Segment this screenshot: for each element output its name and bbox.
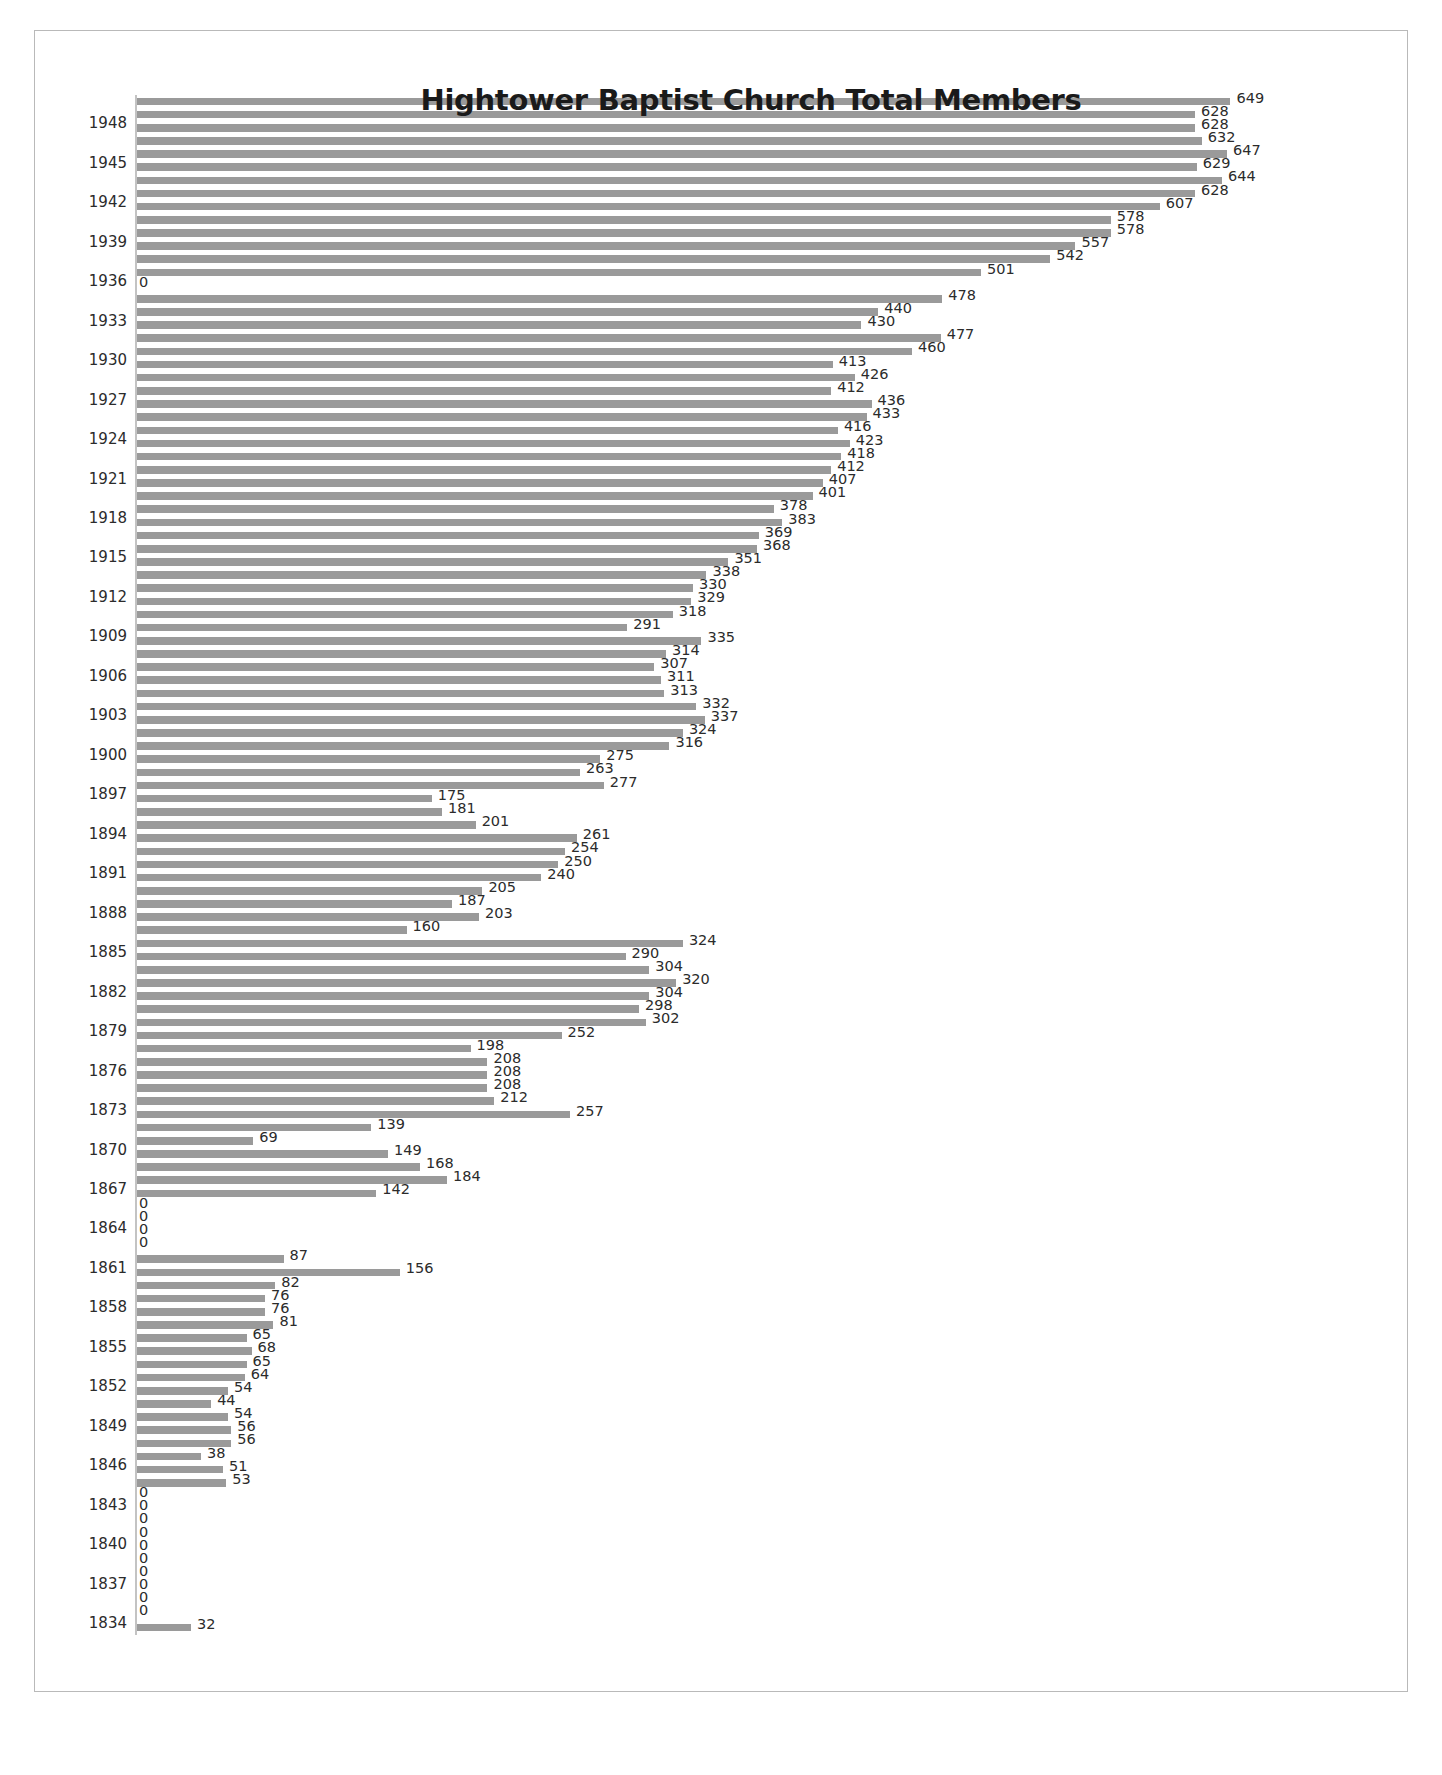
bar-row: 307: [137, 661, 1399, 674]
bar-value-label: 644: [1228, 170, 1256, 183]
bar: [137, 1071, 487, 1079]
bar-value-label: 201: [482, 815, 510, 828]
bar-value-label: 478: [948, 289, 976, 302]
bar-value-label: 168: [426, 1157, 454, 1170]
category-tick-row: [35, 924, 127, 937]
category-tick-row: [35, 805, 127, 818]
bar: [137, 242, 1075, 250]
category-tick-label: 1882: [89, 986, 127, 999]
bar: [137, 821, 476, 829]
bar-row: 368: [137, 542, 1399, 555]
bar: [137, 111, 1195, 119]
bar: [137, 769, 580, 777]
bar-value-label: 412: [837, 381, 865, 394]
category-tick-row: 1921: [35, 477, 127, 490]
bar-row: 0: [137, 279, 1399, 292]
bar: [137, 1413, 228, 1421]
bar-value-label: 142: [382, 1183, 410, 1196]
bar-value-label: 0: [139, 1236, 148, 1249]
bar: [137, 992, 649, 1000]
bar-row: 557: [137, 240, 1399, 253]
bar-row: 254: [137, 845, 1399, 858]
bar-row: 212: [137, 1095, 1399, 1108]
bar-row: 330: [137, 582, 1399, 595]
bar-value-label: 320: [682, 973, 710, 986]
category-tick-row: 1879: [35, 1029, 127, 1042]
bar-row: 261: [137, 832, 1399, 845]
category-tick-label: 1852: [89, 1380, 127, 1393]
bar-row: 275: [137, 753, 1399, 766]
bar: [137, 295, 942, 303]
bar-row: 69: [137, 1134, 1399, 1147]
bar-value-label: 578: [1117, 223, 1145, 236]
bar: [137, 1124, 371, 1132]
category-tick-row: 1855: [35, 1345, 127, 1358]
category-tick-row: 1942: [35, 200, 127, 213]
bar-row: 263: [137, 766, 1399, 779]
category-axis-labels: 1948194519421939193619331930192719241921…: [35, 95, 127, 1635]
category-tick-label: 1894: [89, 828, 127, 841]
category-tick-label: 1909: [89, 630, 127, 643]
bar: [137, 926, 407, 934]
bar-value-label: 430: [867, 315, 895, 328]
bar-value-label: 368: [763, 539, 791, 552]
category-tick-label: 1900: [89, 749, 127, 762]
bar-value-label: 316: [675, 736, 703, 749]
category-tick-label: 1942: [89, 196, 127, 209]
bar-value-label: 257: [576, 1105, 604, 1118]
bar: [137, 203, 1160, 211]
bar: [137, 545, 757, 553]
bar-row: 460: [137, 345, 1399, 358]
category-tick-label: 1921: [89, 473, 127, 486]
bar-value-label: 205: [488, 881, 516, 894]
category-tick-row: 1891: [35, 871, 127, 884]
category-tick-row: 1852: [35, 1384, 127, 1397]
category-tick-row: 1906: [35, 674, 127, 687]
bar-row: 407: [137, 477, 1399, 490]
category-tick-label: 1924: [89, 433, 127, 446]
bar: [137, 400, 872, 408]
bar: [137, 321, 861, 329]
bar-row: 181: [137, 805, 1399, 818]
bar: [137, 1137, 253, 1145]
category-tick-row: [35, 529, 127, 542]
bar: [137, 1111, 570, 1119]
bar: [137, 505, 774, 513]
bar-row: 76: [137, 1292, 1399, 1305]
category-tick-label: 1834: [89, 1617, 127, 1630]
bar-row: 290: [137, 950, 1399, 963]
bar-row: 578: [137, 213, 1399, 226]
category-tick-row: [35, 332, 127, 345]
bar-row: 208: [137, 1082, 1399, 1095]
category-tick-row: 1936: [35, 279, 127, 292]
category-tick-row: [35, 1200, 127, 1213]
bar-row: 65: [137, 1332, 1399, 1345]
bar: [137, 940, 683, 948]
bar-row: 0: [137, 1516, 1399, 1529]
category-tick-row: 1864: [35, 1226, 127, 1239]
bar-row: 0: [137, 1608, 1399, 1621]
bar-row: 0: [137, 1542, 1399, 1555]
bar: [137, 269, 981, 277]
bar: [137, 887, 482, 895]
category-tick-row: [35, 608, 127, 621]
category-tick-row: 1927: [35, 398, 127, 411]
category-tick-row: [35, 1555, 127, 1568]
category-tick-row: 1870: [35, 1148, 127, 1161]
bar-row: 208: [137, 1069, 1399, 1082]
category-tick-row: [35, 1516, 127, 1529]
bar: [137, 1255, 284, 1263]
bar-row: 87: [137, 1253, 1399, 1266]
bar-row: 478: [137, 292, 1399, 305]
category-tick-row: 1915: [35, 555, 127, 568]
category-tick-row: [35, 1121, 127, 1134]
bar: [137, 1426, 231, 1434]
bar: [137, 1334, 247, 1342]
bar: [137, 1295, 265, 1303]
bar-row: 0: [137, 1555, 1399, 1568]
bar: [137, 676, 661, 684]
bar-row: 64: [137, 1371, 1399, 1384]
bar-row: 338: [137, 569, 1399, 582]
bar: [137, 150, 1227, 158]
bar: [137, 229, 1111, 237]
